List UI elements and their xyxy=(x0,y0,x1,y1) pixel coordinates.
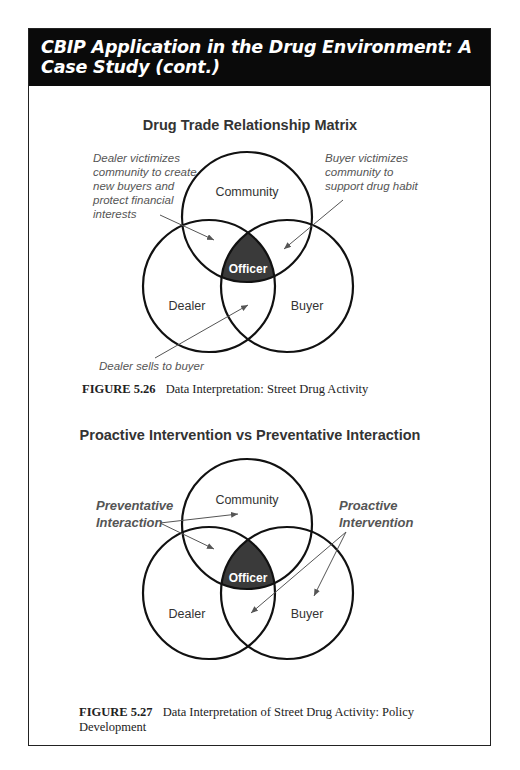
figure-drug-trade-matrix: Drug Trade Relationship Matrix Community… xyxy=(92,117,419,372)
caption-text-line2: Development xyxy=(79,720,146,734)
officer-label: Officer xyxy=(229,262,268,276)
dealer-victimizes-annotation: Dealer victimizes community to create ne… xyxy=(92,152,197,220)
buyer-circle xyxy=(221,527,353,659)
buyer-label: Buyer xyxy=(291,607,324,621)
arrow-icon xyxy=(160,215,214,240)
community-label: Community xyxy=(215,493,279,507)
svg-text:Proactive: Proactive xyxy=(339,498,398,513)
dealer-label: Dealer xyxy=(169,299,206,313)
buyer-circle xyxy=(221,220,353,352)
community-label: Community xyxy=(215,185,279,199)
svg-text:interests: interests xyxy=(93,208,137,220)
proactive-intervention-label: Proactive Intervention xyxy=(339,498,413,530)
svg-text:support drug habit: support drug habit xyxy=(325,180,419,192)
arrow-icon xyxy=(160,514,238,523)
figure-title: Drug Trade Relationship Matrix xyxy=(143,117,357,133)
dealer-label: Dealer xyxy=(169,607,206,621)
figure-number: FIGURE 5.27 xyxy=(79,705,153,719)
arrow-icon xyxy=(284,200,343,249)
svg-text:Preventative: Preventative xyxy=(96,498,173,513)
dealer-circle xyxy=(143,220,275,352)
officer-label: Officer xyxy=(229,571,268,585)
figure-number: FIGURE 5.26 xyxy=(82,382,156,396)
svg-text:community to create: community to create xyxy=(93,166,197,178)
preventative-interaction-label: Preventative Interaction xyxy=(96,498,173,530)
buyer-label: Buyer xyxy=(291,299,324,313)
svg-text:protect financial: protect financial xyxy=(92,194,174,206)
svg-text:new buyers and: new buyers and xyxy=(93,180,175,192)
buyer-victimizes-annotation: Buyer victimizes community to support dr… xyxy=(325,152,419,192)
figure-proactive-vs-preventative: Proactive Intervention vs Preventative I… xyxy=(80,427,421,659)
figure-caption: FIGURE 5.27Data Interpretation of Street… xyxy=(79,705,439,735)
dealer-sells-annotation: Dealer sells to buyer xyxy=(99,360,205,372)
svg-text:Buyer victimizes: Buyer victimizes xyxy=(325,152,408,164)
svg-text:community to: community to xyxy=(325,166,394,178)
figure-caption: FIGURE 5.26Data Interpretation: Street D… xyxy=(82,382,368,397)
figure-title: Proactive Intervention vs Preventative I… xyxy=(80,427,421,443)
svg-text:Intervention: Intervention xyxy=(339,515,413,530)
svg-text:Dealer victimizes: Dealer victimizes xyxy=(93,152,180,164)
caption-text: Data Interpretation of Street Drug Activ… xyxy=(163,705,414,719)
caption-text: Data Interpretation: Street Drug Activit… xyxy=(166,382,369,396)
svg-text:Interaction: Interaction xyxy=(96,515,163,530)
